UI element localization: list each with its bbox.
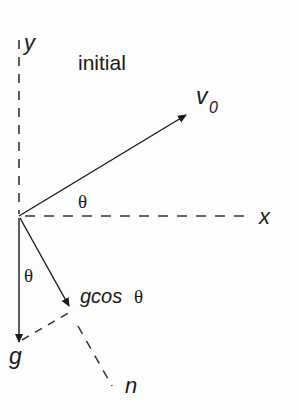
v0-subscript: 0 xyxy=(209,99,218,116)
gcos-theta-symbol: θ xyxy=(134,286,143,307)
title-initial: initial xyxy=(78,51,126,74)
v0-label: v xyxy=(196,83,209,109)
gravity-angle-label: θ xyxy=(24,265,33,286)
n-axis-label: n xyxy=(125,373,137,398)
g-label: g xyxy=(9,343,22,369)
gcos-theta-label: gcos xyxy=(80,285,122,307)
y-axis-label: y xyxy=(22,30,37,55)
launch-angle-label: θ xyxy=(78,191,87,212)
x-axis-label: x xyxy=(258,204,271,229)
physics-diagram: y initial v 0 θ x θ gcos θ g n xyxy=(0,0,300,420)
diagram-labels: y initial v 0 θ x θ gcos θ g n xyxy=(0,0,300,420)
